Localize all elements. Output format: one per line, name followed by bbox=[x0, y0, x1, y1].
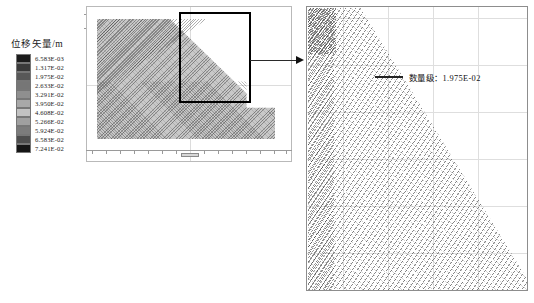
axis-scale-bar bbox=[181, 153, 199, 157]
legend-swatch bbox=[16, 99, 31, 108]
legend-value: 2.633E-02 bbox=[35, 81, 64, 90]
axis-tick bbox=[106, 150, 107, 154]
legend-row: 2.633E-02 bbox=[16, 81, 86, 90]
axis-tick bbox=[260, 150, 261, 154]
legend-swatch bbox=[16, 144, 31, 153]
magnitude-annotation: 数量级：1.975E-02 bbox=[375, 71, 481, 83]
connector-line bbox=[250, 60, 298, 61]
annotation-label: 数量级：1.975E-02 bbox=[409, 71, 481, 83]
legend-row: 6.583E-03 bbox=[16, 54, 86, 63]
legend-row: 4.608E-02 bbox=[16, 108, 86, 117]
displacement-legend: 位移矢量/m 6.583E-03 1.317E-02 1.975E-02 2.6… bbox=[8, 33, 88, 157]
legend-row: 6.583E-02 bbox=[16, 135, 86, 144]
legend-row: 1.317E-02 bbox=[16, 63, 86, 72]
legend-swatch bbox=[16, 72, 31, 81]
axis-tick bbox=[204, 150, 205, 154]
legend-row: 7.241E-02 bbox=[16, 144, 86, 153]
legend-value: 3.291E-02 bbox=[35, 90, 64, 99]
horizontal-axis-line bbox=[86, 150, 292, 151]
axis-tick bbox=[92, 150, 93, 154]
legend-row: 5.266E-02 bbox=[16, 117, 86, 126]
zoom-speckle-cluster bbox=[308, 8, 336, 54]
zoom-vector-field bbox=[308, 8, 527, 290]
overview-figure: 位移矢量/m 6.583E-03 1.317E-02 1.975E-02 2.6… bbox=[0, 0, 300, 170]
plot-horizontal-axis bbox=[86, 150, 292, 162]
legend-row: 3.291E-02 bbox=[16, 90, 86, 99]
legend-value: 6.583E-02 bbox=[35, 135, 64, 144]
legend-swatch bbox=[16, 54, 31, 63]
annotation-leader-line bbox=[375, 76, 403, 77]
region-of-interest-box bbox=[179, 12, 251, 103]
axis-tick bbox=[274, 150, 275, 154]
legend-swatch bbox=[16, 81, 31, 90]
legend-value: 5.924E-02 bbox=[35, 126, 64, 135]
axis-tick bbox=[176, 150, 177, 154]
legend-color-scale: 6.583E-03 1.317E-02 1.975E-02 2.633E-02 … bbox=[16, 54, 86, 153]
axis-tick bbox=[246, 150, 247, 154]
legend-swatch bbox=[16, 135, 31, 144]
legend-value: 1.975E-02 bbox=[35, 72, 64, 81]
legend-value: 6.583E-03 bbox=[35, 54, 64, 63]
legend-swatch bbox=[16, 108, 31, 117]
legend-swatch bbox=[16, 63, 31, 72]
legend-swatch bbox=[16, 117, 31, 126]
legend-value: 3.950E-02 bbox=[35, 99, 64, 108]
legend-row: 3.950E-02 bbox=[16, 99, 86, 108]
axis-tick bbox=[148, 150, 149, 154]
legend-value: 7.241E-02 bbox=[35, 144, 64, 153]
legend-value: 4.608E-02 bbox=[35, 108, 64, 117]
model-plot bbox=[86, 6, 292, 162]
legend-title: 位移矢量/m bbox=[11, 36, 63, 50]
legend-value: 5.266E-02 bbox=[35, 117, 64, 126]
legend-row: 1.975E-02 bbox=[16, 72, 86, 81]
zoom-connector-arrow bbox=[250, 56, 306, 65]
axis-tick bbox=[120, 150, 121, 154]
axis-tick bbox=[134, 150, 135, 154]
legend-value: 1.317E-02 bbox=[35, 63, 64, 72]
axis-tick bbox=[286, 150, 287, 154]
zoomed-detail-panel: 数量级：1.975E-02 bbox=[306, 6, 528, 291]
axis-tick bbox=[218, 150, 219, 154]
legend-row: 5.924E-02 bbox=[16, 126, 86, 135]
axis-tick bbox=[232, 150, 233, 154]
legend-swatch bbox=[16, 126, 31, 135]
arrow-head-icon bbox=[296, 56, 304, 64]
legend-swatch bbox=[16, 90, 31, 99]
axis-tick bbox=[162, 150, 163, 154]
